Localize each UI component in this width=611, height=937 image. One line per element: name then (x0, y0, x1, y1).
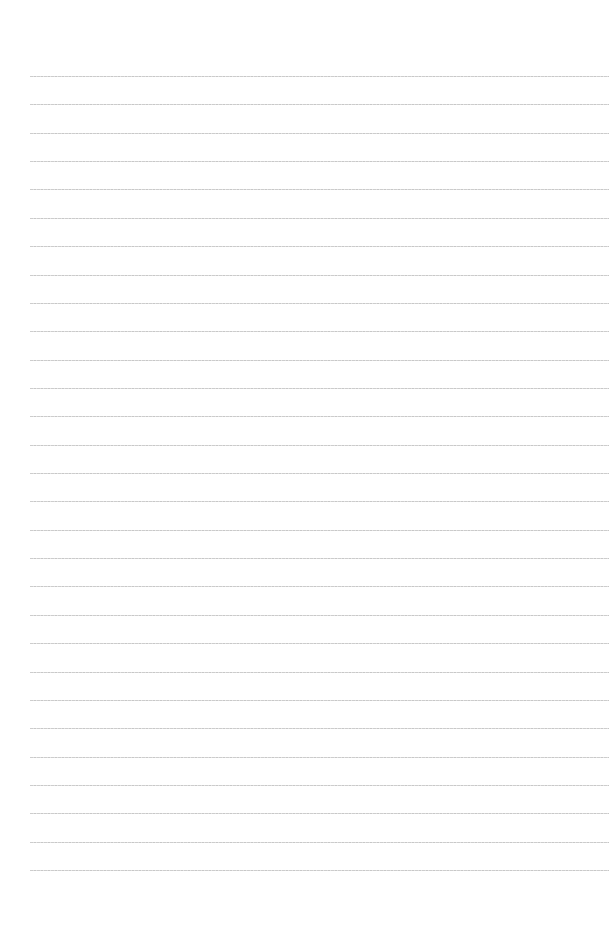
ruled-line (30, 586, 609, 587)
ruled-line (30, 501, 609, 502)
ruled-line (30, 218, 609, 219)
ruled-line (30, 615, 609, 616)
ruled-line (30, 189, 609, 190)
ruled-line (30, 530, 609, 531)
ruled-line (30, 643, 609, 644)
ruled-line (30, 246, 609, 247)
ruled-line (30, 445, 609, 446)
ruled-line (30, 76, 609, 77)
ruled-line (30, 757, 609, 758)
ruled-line (30, 728, 609, 729)
ruled-line (30, 813, 609, 814)
ruled-line (30, 870, 609, 871)
ruled-line (30, 700, 609, 701)
ruled-line (30, 161, 609, 162)
ruled-line (30, 842, 609, 843)
ruled-line (30, 133, 609, 134)
ruled-line (30, 360, 609, 361)
ruled-line (30, 388, 609, 389)
ruled-line (30, 672, 609, 673)
ruled-line (30, 473, 609, 474)
ruled-line (30, 275, 609, 276)
ruled-line (30, 558, 609, 559)
ruled-line (30, 104, 609, 105)
ruled-line (30, 331, 609, 332)
ruled-line (30, 303, 609, 304)
ruled-line (30, 416, 609, 417)
ruled-page (0, 0, 611, 937)
ruled-line (30, 785, 609, 786)
